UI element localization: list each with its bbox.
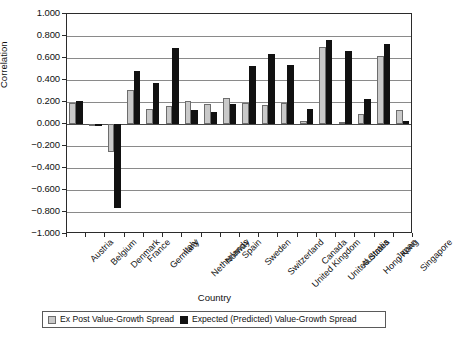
x-tick-mark [412, 233, 413, 237]
bar-expected [268, 54, 275, 124]
bar-group [67, 14, 86, 232]
bar-expected [211, 112, 218, 124]
bar-expected [249, 66, 256, 124]
bar-expected [95, 124, 102, 126]
x-tick-mark [66, 233, 67, 237]
x-tick-label: Sweden [262, 237, 292, 267]
bar-group [86, 14, 105, 232]
x-tick-mark [335, 233, 336, 237]
bar-ex-post [127, 90, 134, 124]
bar-expected [153, 83, 160, 124]
bar-group [202, 14, 221, 232]
y-tick-label: 0.400 [2, 74, 60, 84]
x-tick-mark [316, 233, 317, 237]
bar-ex-post [377, 56, 384, 124]
bar-ex-post [262, 105, 269, 124]
chart-legend: Ex Post Value-Growth Spread Expected (Pr… [42, 311, 386, 328]
bar-group [182, 14, 201, 232]
x-tick-label: Singapore [418, 237, 454, 273]
bar-group [375, 14, 394, 232]
bar-expected [384, 44, 391, 124]
bar-group [278, 14, 297, 232]
bar-expected [307, 109, 314, 124]
bars-layer [67, 14, 411, 232]
legend-label-ex-post: Ex Post Value-Growth Spread [60, 315, 174, 324]
legend-label-expected: Expected (Predicted) Value-Growth Spread [192, 315, 357, 324]
y-tick-label: 0.000 [2, 118, 60, 128]
legend-item-expected: Expected (Predicted) Value-Growth Spread [180, 315, 357, 324]
y-tick-label: 0.600 [2, 52, 60, 62]
bar-ex-post [223, 98, 230, 124]
bar-ex-post [358, 114, 365, 124]
bar-group [240, 14, 259, 232]
bar-ex-post [204, 104, 211, 124]
x-tick-mark [85, 233, 86, 237]
x-tick-mark [181, 233, 182, 237]
bar-expected [403, 121, 410, 124]
x-tick-mark [354, 233, 355, 237]
bar-group [298, 14, 317, 232]
y-tick-label: −0.600 [2, 184, 60, 194]
plot-area [66, 13, 412, 233]
bar-ex-post [300, 121, 307, 124]
bar-ex-post [396, 110, 403, 124]
x-tick-mark [220, 233, 221, 237]
bar-expected [287, 65, 294, 124]
bar-ex-post [339, 122, 346, 124]
y-tick-label: −0.400 [2, 162, 60, 172]
y-tick-label: 0.800 [2, 30, 60, 40]
x-tick-mark [104, 233, 105, 237]
x-tick-mark [201, 233, 202, 237]
y-tick-label: 0.200 [2, 96, 60, 106]
bar-group [355, 14, 374, 232]
bar-group [394, 14, 413, 232]
bar-ex-post [69, 103, 76, 124]
bar-group [336, 14, 355, 232]
bar-expected [76, 101, 83, 124]
legend-item-ex-post: Ex Post Value-Growth Spread [48, 315, 174, 324]
bar-ex-post [89, 124, 96, 126]
bar-group [163, 14, 182, 232]
x-tick-mark [162, 233, 163, 237]
bar-group [125, 14, 144, 232]
bar-group [317, 14, 336, 232]
bar-group [221, 14, 240, 232]
y-tick-label: −1.000 [2, 228, 60, 238]
bar-ex-post [185, 101, 192, 124]
x-tick-mark [258, 233, 259, 237]
bar-expected [364, 99, 371, 124]
bar-ex-post [146, 109, 153, 124]
x-tick-mark [143, 233, 144, 237]
bar-ex-post [281, 103, 288, 124]
x-tick-label: Japan [394, 237, 418, 261]
y-tick-label: −0.200 [2, 140, 60, 150]
bar-ex-post [108, 124, 115, 152]
x-tick-mark [374, 233, 375, 237]
y-tick-label: 1.000 [2, 8, 60, 18]
bar-ex-post [166, 106, 173, 124]
bar-expected [191, 110, 198, 124]
legend-swatch-ex-post-icon [48, 316, 56, 324]
bar-expected [114, 124, 121, 208]
legend-swatch-expected-icon [180, 316, 188, 324]
bar-expected [345, 51, 352, 124]
bar-group [105, 14, 124, 232]
bar-expected [134, 71, 141, 124]
bar-expected [172, 48, 179, 124]
x-tick-mark [297, 233, 298, 237]
bar-group [144, 14, 163, 232]
bar-ex-post [242, 103, 249, 124]
bar-expected [326, 40, 333, 124]
bar-group [259, 14, 278, 232]
x-tick-mark [124, 233, 125, 237]
x-tick-mark [239, 233, 240, 237]
x-tick-mark [393, 233, 394, 237]
bar-expected [230, 104, 237, 124]
x-axis-title: Country [0, 292, 429, 303]
x-tick-mark [277, 233, 278, 237]
y-tick-label: −0.800 [2, 206, 60, 216]
bar-ex-post [319, 47, 326, 124]
